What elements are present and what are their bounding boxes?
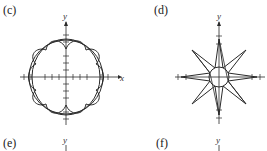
panel-c-graph — [20, 21, 122, 125]
figure-canvas — [0, 0, 267, 151]
panel-d-graph — [175, 21, 265, 124]
panel-c-x-arrow-icon — [118, 75, 122, 79]
panel-c-y-arrow-icon — [64, 21, 68, 26]
panel-d-y-arrow-icon — [217, 21, 221, 26]
